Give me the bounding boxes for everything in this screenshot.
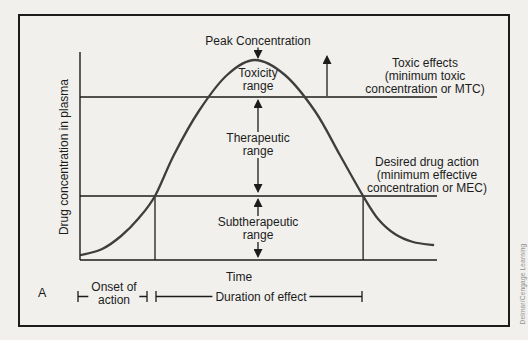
duration-of-effect-label: Duration of effect: [212, 291, 309, 304]
publisher-credit: Delmar/Cengage Learning: [519, 244, 526, 325]
onset-of-action-label: Onset of action: [88, 281, 139, 307]
desired-action-label: Desired drug action (minimum effective c…: [367, 156, 487, 195]
x-axis-label: Time: [226, 271, 252, 284]
toxic-effects-label: Toxic effects (minimum toxic concentrati…: [365, 57, 484, 96]
panel-label: A: [38, 286, 46, 300]
toxicity-range-label: Toxicity range: [238, 67, 277, 93]
peak-concentration-label: Peak Concentration: [205, 35, 310, 48]
subtherapeutic-range-label: Subtherapeutic range: [215, 216, 302, 242]
therapeutic-range-label: Therapeutic range: [223, 132, 292, 158]
pharmacology-figure: Drug concentration in plasma Peak Concen…: [0, 0, 528, 340]
y-axis-label: Drug concentration in plasma: [57, 79, 71, 235]
